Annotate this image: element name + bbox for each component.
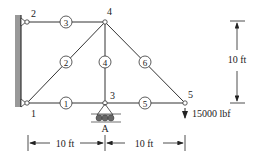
member-label-1: 1	[60, 97, 72, 109]
pin-support-icon	[21, 18, 26, 107]
node-label-3: 3	[110, 90, 115, 101]
svg-text:3: 3	[64, 18, 69, 28]
support-label: A	[101, 123, 109, 134]
right-span-label: 10 ft	[135, 138, 154, 149]
svg-text:5: 5	[143, 99, 148, 109]
svg-text:1: 1	[64, 99, 69, 109]
member-label-4: 4	[99, 56, 111, 68]
svg-text:6: 6	[143, 58, 148, 68]
load-label: 15000 lbf	[192, 108, 231, 119]
member-label-5: 5	[139, 97, 151, 109]
node-label-5: 5	[188, 89, 193, 100]
member-label-6: 6	[139, 56, 151, 68]
truss-diagram: 1 2 3 4 5 6 2 4 1 3 5 A 15000 lbf 10 ft	[0, 0, 261, 157]
member-label-2: 2	[60, 56, 72, 68]
node-label-1: 1	[31, 108, 36, 119]
svg-text:2: 2	[64, 58, 69, 68]
svg-text:4: 4	[103, 58, 108, 68]
span-dimension	[28, 135, 185, 151]
member-label-3: 3	[60, 16, 72, 28]
height-label: 10 ft	[228, 54, 247, 65]
node-label-4: 4	[107, 6, 112, 17]
left-span-label: 10 ft	[56, 138, 75, 149]
node-label-2: 2	[31, 8, 36, 19]
roller-support-icon	[91, 104, 121, 122]
wall-support	[15, 15, 21, 107]
